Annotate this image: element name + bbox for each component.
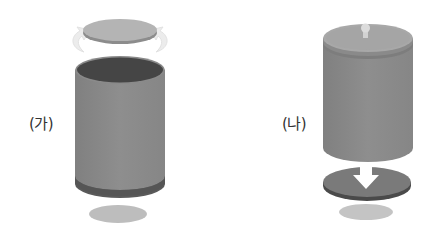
diagram-svg (0, 0, 437, 239)
panel-label-na: (나) (282, 117, 306, 132)
figure-canvas: (가) (나) (0, 0, 437, 239)
panel-label-ga: (가) (29, 117, 53, 132)
panel-ga (73, 19, 167, 223)
bottom-disk-removed (89, 205, 147, 223)
panel-na (323, 24, 413, 221)
open-cylinder (75, 56, 165, 198)
closed-cylinder (323, 24, 413, 163)
disk-shadow (339, 204, 393, 220)
lid-lifted (83, 19, 157, 44)
